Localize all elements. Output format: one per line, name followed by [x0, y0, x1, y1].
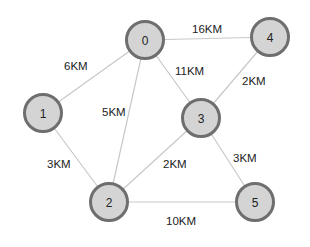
node-1: 1 [25, 95, 62, 132]
node-label: 5 [252, 196, 259, 210]
node-3: 3 [183, 100, 220, 137]
node-label: 2 [106, 196, 113, 210]
node-2: 2 [91, 184, 128, 221]
edge-label-0-1: 6KM [64, 60, 88, 72]
edge-label-0-4: 16KM [192, 23, 222, 35]
edge-0-2 [109, 40, 145, 202]
edge-label-0-2: 5KM [102, 106, 126, 118]
edge-label-3-5: 3KM [233, 152, 257, 164]
node-0: 0 [127, 22, 164, 59]
node-5: 5 [237, 184, 274, 221]
nodes: 012345 [25, 19, 289, 221]
node-label: 3 [198, 112, 205, 126]
edge-label-2-5: 10KM [166, 215, 196, 227]
edge-label-1-2: 3KM [47, 158, 71, 170]
node-label: 4 [267, 31, 274, 45]
graph-diagram: 16KM6KM11KM5KM2KM3KM2KM3KM10KM 012345 [0, 0, 310, 247]
edge-label-0-3: 11KM [175, 65, 204, 77]
edge-label-3-2: 2KM [163, 158, 187, 170]
edge-label-4-3: 2KM [242, 75, 266, 87]
node-label: 1 [40, 107, 47, 121]
node-label: 0 [142, 34, 149, 48]
node-4: 4 [252, 19, 289, 56]
